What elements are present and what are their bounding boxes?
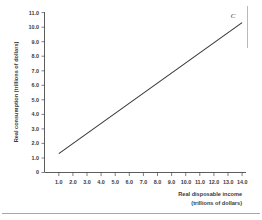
series-label-c: C — [231, 12, 236, 20]
x-tick-label: 10.0 — [181, 179, 192, 185]
y-tick-label: 11.0 — [29, 10, 39, 16]
y-axis-title: Real consumption (trillions of dollars) — [13, 42, 19, 143]
x-tick-label: 1.0 — [55, 179, 63, 185]
x-axis-title-line1: Real disposable income — [178, 191, 242, 197]
x-tick-label: 4.0 — [97, 179, 105, 185]
consumption-function-figure: 0 1.0 2.0 3.0 4.0 5.0 6.0 7.0 8.0 9.0 10… — [0, 0, 262, 220]
y-tick-label: 3.0 — [32, 126, 40, 132]
y-tick-label: 1.0 — [32, 155, 40, 161]
x-axis-title-line2: (trillions of dollars) — [191, 200, 242, 206]
x-tick-label: 12.0 — [209, 179, 220, 185]
x-tick-label: 9.0 — [168, 179, 176, 185]
y-tick-label: 7.0 — [32, 68, 40, 74]
y-tick-label: 4.0 — [32, 111, 40, 117]
y-tick-label: 10.0 — [29, 24, 40, 30]
x-tick-label: 8.0 — [154, 179, 162, 185]
y-tick-label: 2.0 — [32, 140, 40, 146]
top-cropped-text-band — [0, 0, 262, 6]
x-tick-label: 5.0 — [111, 179, 119, 185]
y-tick-label: 5.0 — [32, 97, 40, 103]
y-tick-label: 8.0 — [32, 53, 40, 59]
x-tick-label: 13.0 — [223, 179, 234, 185]
y-tick-label: 6.0 — [32, 82, 40, 88]
x-tick-label: 6.0 — [126, 179, 134, 185]
x-tick-label: 11.0 — [195, 179, 205, 185]
x-tick-label: 14.0 — [237, 179, 248, 185]
x-tick-label: 3.0 — [83, 179, 91, 185]
x-tick-label: 7.0 — [140, 179, 148, 185]
y-tick-label: 0 — [36, 169, 39, 175]
chart-background — [0, 0, 262, 220]
y-tick-label: 9.0 — [32, 39, 40, 45]
x-tick-label: 2.0 — [69, 179, 77, 185]
chart-canvas: 0 1.0 2.0 3.0 4.0 5.0 6.0 7.0 8.0 9.0 10… — [0, 0, 262, 220]
